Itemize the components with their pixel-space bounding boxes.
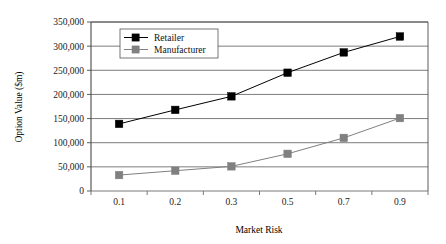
y-axis-tick-label: 350,000 — [53, 17, 84, 27]
y-axis-tick-label: 150,000 — [53, 114, 84, 124]
legend-label-manufacturer: Manufacturer — [154, 45, 207, 55]
x-axis-tick-label: 0.7 — [338, 197, 350, 207]
y-axis-tick-label: 50,000 — [58, 162, 84, 172]
data-point-manufacturer-0.3 — [228, 163, 236, 171]
x-axis-tick-label: 0.3 — [225, 197, 237, 207]
x-axis-title: Market Risk — [235, 225, 282, 235]
data-point-retailer-0.2 — [172, 106, 180, 114]
x-axis-tick-label: 0.5 — [282, 197, 294, 207]
data-point-retailer-0.7 — [340, 49, 348, 57]
data-point-retailer-0.3 — [228, 93, 236, 101]
legend-marker-retailer — [132, 34, 139, 41]
data-point-manufacturer-0.1 — [115, 171, 123, 179]
y-axis-title: Option Value ($m) — [14, 71, 25, 142]
x-axis-tick-label: 0.2 — [169, 197, 181, 207]
data-point-manufacturer-0.5 — [284, 150, 292, 158]
x-axis-tick-label: 0.1 — [113, 197, 125, 207]
y-axis-tick-label: 250,000 — [53, 66, 84, 76]
legend-label-retailer: Retailer — [154, 33, 185, 43]
y-axis-tick-label: 0 — [79, 186, 84, 196]
data-point-retailer-0.1 — [115, 120, 123, 128]
legend-marker-manufacturer — [132, 46, 139, 53]
x-axis-tick-label: 0.9 — [394, 197, 406, 207]
data-point-retailer-0.5 — [284, 69, 292, 77]
data-point-manufacturer-0.9 — [396, 114, 404, 122]
y-axis-tick-label: 200,000 — [53, 90, 84, 100]
y-axis-tick-label: 100,000 — [53, 138, 84, 148]
data-point-retailer-0.9 — [396, 33, 404, 41]
chart-container: 050,000100,000150,000200,000250,000300,0… — [0, 0, 446, 244]
data-point-manufacturer-0.2 — [172, 167, 180, 175]
chart-legend: RetailerManufacturer — [120, 29, 218, 58]
option-value-vs-market-risk-chart: 050,000100,000150,000200,000250,000300,0… — [0, 0, 446, 244]
y-axis-tick-label: 300,000 — [53, 42, 84, 52]
data-point-manufacturer-0.7 — [340, 134, 348, 142]
